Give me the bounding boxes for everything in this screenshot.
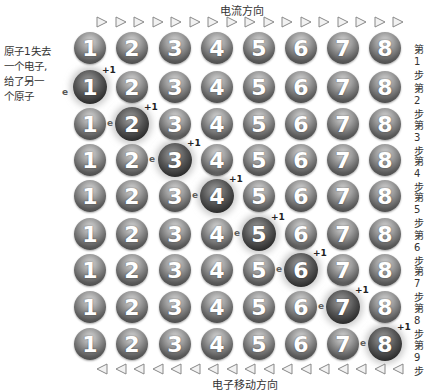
- atom: 3: [159, 108, 191, 140]
- atom: 2: [116, 180, 148, 212]
- atom: 2: [116, 291, 148, 323]
- atom-ion: 6: [284, 253, 318, 287]
- electron-symbol: e: [360, 338, 366, 348]
- ion-charge-label: +1: [102, 65, 116, 75]
- note-line: 原子1失去: [4, 44, 66, 59]
- atom: 8: [369, 291, 401, 323]
- atom: 2: [116, 218, 148, 250]
- arrow-right-icon: [207, 16, 226, 28]
- atom: 4: [201, 291, 233, 323]
- note-line: 一个电子,: [4, 59, 66, 74]
- step-label: 第6步: [414, 227, 424, 268]
- atom: 8: [369, 180, 401, 212]
- atom: 1: [74, 291, 106, 323]
- atom: 2: [116, 32, 148, 64]
- arrow-left-icon: [281, 363, 300, 375]
- atom-ion: 5: [242, 217, 276, 251]
- arrow-left-icon: [355, 363, 374, 375]
- atom: 7: [327, 108, 359, 140]
- atom-ion: 3: [158, 143, 192, 177]
- arrow-left-icon: [337, 363, 356, 375]
- arrow-left-icon: [244, 363, 263, 375]
- atom: 5: [243, 180, 275, 212]
- electron-direction-arrows: [96, 363, 411, 375]
- arrow-right-icon: [281, 16, 300, 28]
- atom: 5: [243, 71, 275, 103]
- arrow-right-icon: [115, 16, 134, 28]
- atom: 8: [369, 71, 401, 103]
- explanation-note: 原子1失去一个电子,给了另一个原子e: [4, 44, 66, 104]
- atom-ion: 7: [326, 290, 360, 324]
- arrow-right-icon: [318, 16, 337, 28]
- atom: 4: [201, 218, 233, 250]
- atom: 7: [327, 71, 359, 103]
- atom: 8: [369, 218, 401, 250]
- atom: 5: [243, 328, 275, 360]
- atom: 7: [327, 328, 359, 360]
- atom: 4: [201, 144, 233, 176]
- arrow-right-icon: [337, 16, 356, 28]
- arrow-left-icon: [374, 363, 393, 375]
- ion-charge-label: +1: [313, 248, 327, 258]
- arrow-right-icon: [226, 16, 245, 28]
- ion-charge-label: +1: [397, 322, 411, 332]
- electron-direction-label: 电子移动方向: [212, 376, 278, 392]
- atom: 6: [285, 144, 317, 176]
- arrow-left-icon: [170, 363, 189, 375]
- arrow-right-icon: [133, 16, 152, 28]
- atom: 4: [201, 32, 233, 64]
- atom: 8: [369, 32, 401, 64]
- ion-charge-label: +1: [271, 212, 285, 222]
- atom: 7: [327, 32, 359, 64]
- arrow-left-icon: [226, 363, 245, 375]
- electron-symbol: e: [107, 118, 113, 128]
- atom: 5: [243, 32, 275, 64]
- atom: 7: [327, 254, 359, 286]
- atom: 2: [116, 328, 148, 360]
- step-label: 第7步: [414, 263, 424, 304]
- step-label: 第8步: [414, 300, 424, 341]
- arrow-right-icon: [300, 16, 319, 28]
- atom: 1: [74, 32, 106, 64]
- ion-charge-label: +1: [229, 174, 243, 184]
- step-label: 第3步: [414, 117, 424, 158]
- atom: 5: [243, 291, 275, 323]
- atom: 6: [285, 108, 317, 140]
- arrow-left-icon: [115, 363, 134, 375]
- atom-ion: 4: [200, 179, 234, 213]
- arrow-left-icon: [392, 363, 411, 375]
- step-label: 第1步: [414, 41, 424, 82]
- atom: 3: [159, 180, 191, 212]
- arrow-left-icon: [318, 363, 337, 375]
- arrow-right-icon: [355, 16, 374, 28]
- electron-symbol: e: [276, 264, 282, 274]
- atom: 4: [201, 71, 233, 103]
- atom: 3: [159, 254, 191, 286]
- atom: 4: [201, 254, 233, 286]
- atom: 7: [327, 180, 359, 212]
- arrow-right-icon: [152, 16, 171, 28]
- atom: 3: [159, 71, 191, 103]
- atom: 2: [116, 254, 148, 286]
- atom: 7: [327, 144, 359, 176]
- note-line: 给了另一: [4, 74, 66, 89]
- electron-symbol: e: [192, 190, 198, 200]
- atom-ion: 2: [115, 107, 149, 141]
- atom: 6: [285, 218, 317, 250]
- step-label: 第5步: [414, 189, 424, 230]
- note-line: 个原子: [4, 89, 66, 104]
- atom: 6: [285, 328, 317, 360]
- ion-charge-label: +1: [355, 285, 369, 295]
- atom: 3: [159, 218, 191, 250]
- step-label: 第2步: [414, 80, 424, 121]
- atom-ion: 8: [368, 327, 402, 361]
- atom: 2: [116, 144, 148, 176]
- atom: 5: [243, 108, 275, 140]
- atom: 8: [369, 144, 401, 176]
- arrow-right-icon: [392, 16, 411, 28]
- atom: 5: [243, 254, 275, 286]
- atom: 4: [201, 108, 233, 140]
- atom: 6: [285, 32, 317, 64]
- atom: 1: [74, 108, 106, 140]
- atom: 1: [74, 218, 106, 250]
